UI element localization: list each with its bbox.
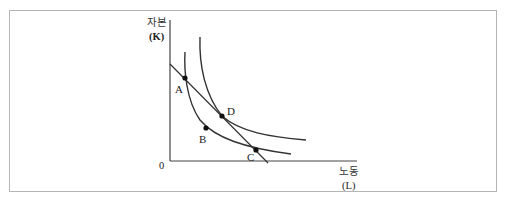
point-b-label: B — [199, 133, 206, 145]
point-d-label: D — [227, 105, 235, 117]
x-axis-label: 노동 — [339, 165, 359, 177]
point-a-label: A — [175, 83, 183, 95]
y-axis-label: 자본 — [147, 16, 167, 28]
point-d-marker — [219, 113, 224, 118]
y-axis-unit: (K) — [149, 31, 165, 43]
origin-label: 0 — [159, 160, 164, 171]
x-axis-unit: (L) — [342, 180, 356, 192]
outer-isoquant-curve — [200, 37, 306, 140]
point-a-marker — [182, 75, 187, 80]
point-b-marker — [203, 125, 208, 130]
point-c-label: C — [247, 151, 254, 163]
isoquant-diagram: A B C D 자본 (K) 노동 (L) 0 — [0, 0, 505, 204]
